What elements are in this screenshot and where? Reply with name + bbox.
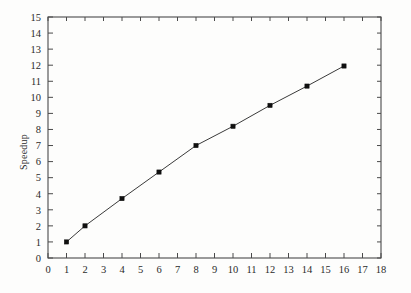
data-point-marker <box>268 103 272 107</box>
x-tick-label: 11 <box>246 264 256 275</box>
data-point-marker <box>231 124 235 128</box>
y-tick-label: 6 <box>36 156 41 167</box>
x-tick-label: 2 <box>82 264 87 275</box>
x-tick-label: 1 <box>64 264 69 275</box>
x-tick-label: 15 <box>320 264 331 275</box>
x-tick-label: 6 <box>156 264 161 275</box>
x-tick-label: 5 <box>138 264 143 275</box>
y-tick-label: 4 <box>36 189 42 200</box>
y-tick-label: 2 <box>36 221 41 232</box>
x-tick-label: 4 <box>119 264 125 275</box>
data-point-marker <box>120 196 124 200</box>
y-tick-label: 11 <box>31 76 41 87</box>
y-tick-label: 13 <box>31 44 42 55</box>
y-tick-label: 3 <box>36 205 41 216</box>
y-tick-label: 5 <box>36 172 41 183</box>
y-tick-label: 8 <box>36 124 41 135</box>
y-tick-label: 7 <box>36 140 41 151</box>
x-tick-label: 7 <box>175 264 180 275</box>
data-point-marker <box>157 170 161 174</box>
x-tick-label: 17 <box>357 264 368 275</box>
x-tick-label: 10 <box>228 264 239 275</box>
chart-figure: 0123456789101112131415161718 01234567891… <box>0 0 411 293</box>
x-tick-label: 3 <box>101 264 106 275</box>
x-tick-label: 18 <box>376 264 387 275</box>
data-point-marker <box>64 240 68 244</box>
y-tick-label: 1 <box>36 237 41 248</box>
data-point-marker <box>305 84 309 88</box>
y-tick-label: 15 <box>31 12 42 23</box>
data-point-marker <box>83 224 87 228</box>
y-tick-label: 9 <box>36 108 41 119</box>
speedup-line-chart: 0123456789101112131415161718 01234567891… <box>0 0 411 293</box>
x-tick-label: 16 <box>339 264 350 275</box>
data-point-marker <box>194 143 198 147</box>
y-tick-label: 0 <box>36 253 41 264</box>
x-tick-label: 8 <box>193 264 198 275</box>
y-tick-label: 14 <box>31 28 42 39</box>
x-tick-label: 9 <box>212 264 217 275</box>
x-tick-label: 0 <box>45 264 50 275</box>
x-tick-label: 13 <box>283 264 294 275</box>
x-tick-label: 12 <box>265 264 276 275</box>
y-tick-label: 10 <box>31 92 42 103</box>
y-axis-label: Speedup <box>18 134 29 170</box>
data-point-marker <box>342 64 346 68</box>
figure-background <box>0 0 411 293</box>
x-tick-label: 14 <box>302 264 313 275</box>
y-tick-label: 12 <box>31 60 42 71</box>
